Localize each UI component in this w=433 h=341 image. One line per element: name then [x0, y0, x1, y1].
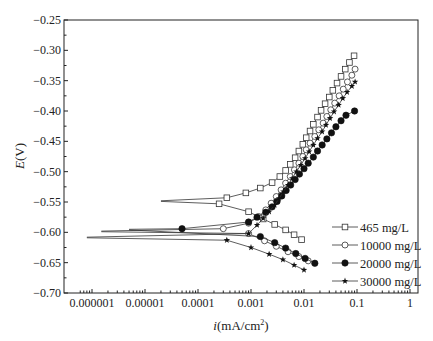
x-tick-label: 0.0001 — [182, 296, 215, 310]
y-tick-label: −0.30 — [33, 43, 61, 57]
marker-circle-filled — [319, 142, 325, 148]
marker-circle-filled — [342, 260, 348, 266]
x-axis-label: i(mA/cm2) — [213, 318, 268, 333]
marker-square-open — [291, 232, 297, 238]
x-tick-label: 0.1 — [350, 296, 365, 310]
marker-circle-filled — [293, 250, 299, 256]
marker-circle-filled — [324, 136, 330, 142]
marker-star — [291, 262, 297, 268]
marker-circle-filled — [257, 233, 263, 239]
legend: 465 mg/L10000 mg/L20000 mg/L30000 mg/L — [332, 221, 421, 289]
polarization-chart: −0.25−0.30−0.35−0.40−0.45−0.50−0.55−0.60… — [0, 0, 433, 341]
marker-circle-open — [344, 79, 350, 85]
marker-square-open — [330, 88, 336, 94]
marker-circle-filled — [333, 124, 339, 130]
marker-circle-open — [332, 100, 338, 106]
marker-circle-filled — [351, 108, 357, 114]
marker-square-open — [277, 174, 283, 180]
y-tick-label: −0.40 — [33, 104, 61, 118]
chart-canvas: −0.25−0.30−0.35−0.40−0.45−0.50−0.55−0.60… — [0, 0, 433, 341]
marker-square-open — [342, 66, 348, 72]
x-axis: 0.0000010.000010.00010.0010.010.11 — [70, 289, 414, 310]
legend-label: 10000 mg/L — [360, 239, 421, 253]
marker-square-open — [307, 128, 313, 134]
marker-star — [266, 251, 273, 257]
marker-circle-filled — [302, 255, 308, 261]
legend-item: 465 mg/L — [332, 221, 409, 235]
marker-square-open — [296, 148, 302, 154]
marker-square-open — [216, 201, 222, 207]
x-tick-label: 0.00001 — [126, 296, 165, 310]
marker-square-open — [338, 74, 344, 80]
marker-circle-filled — [310, 154, 316, 160]
marker-square-open — [334, 80, 340, 86]
y-tick-label: −0.70 — [33, 286, 61, 300]
marker-star — [224, 237, 231, 243]
y-axis-label: E(V) — [12, 143, 27, 170]
marker-circle-filled — [254, 214, 260, 220]
marker-square-open — [303, 135, 309, 141]
marker-square-open — [258, 185, 264, 191]
x-tick-label: 1 — [407, 296, 413, 310]
marker-square-open — [351, 53, 357, 59]
marker-circle-filled — [338, 118, 344, 124]
marker-square-open — [326, 94, 332, 100]
x-tick-label: 0.000001 — [70, 296, 115, 310]
marker-circle-filled — [314, 148, 320, 154]
marker-circle-filled — [271, 239, 277, 245]
marker-star — [301, 267, 307, 273]
series-30000-mg-L — [87, 79, 358, 273]
marker-square-open — [287, 162, 293, 168]
marker-square-open — [283, 168, 289, 174]
legend-item: 20000 mg/L — [332, 257, 421, 271]
y-tick-label: −0.60 — [33, 225, 61, 239]
x-tick-label: 0.001 — [238, 296, 265, 310]
marker-square-open — [342, 224, 348, 230]
marker-square-open — [283, 227, 289, 233]
y-tick-label: −0.25 — [33, 13, 61, 27]
marker-star — [352, 79, 359, 85]
legend-label: 465 mg/L — [360, 221, 409, 235]
y-tick-label: −0.55 — [33, 195, 61, 209]
marker-square-open — [311, 122, 317, 128]
marker-square-open — [318, 108, 324, 114]
marker-circle-open — [342, 242, 348, 248]
y-tick-label: −0.50 — [33, 165, 61, 179]
marker-square-open — [292, 155, 298, 161]
y-tick-label: −0.35 — [33, 74, 61, 88]
marker-circle-open — [220, 226, 226, 232]
marker-square-open — [347, 60, 353, 66]
marker-circle-filled — [343, 112, 349, 118]
y-tick-label: −0.65 — [33, 256, 61, 270]
marker-square-open — [224, 195, 230, 201]
legend-label: 30000 mg/L — [360, 275, 421, 289]
marker-square-open — [299, 237, 305, 243]
marker-circle-open — [352, 66, 358, 72]
marker-square-open — [246, 209, 252, 215]
marker-circle-open — [349, 72, 355, 78]
marker-square-open — [243, 190, 249, 196]
marker-circle-filled — [312, 260, 318, 266]
marker-square-open — [315, 114, 321, 120]
marker-circle-filled — [179, 225, 185, 231]
y-axis: −0.25−0.30−0.35−0.40−0.45−0.50−0.55−0.60… — [33, 13, 68, 300]
marker-square-open — [322, 101, 328, 107]
legend-label: 20000 mg/L — [360, 257, 421, 271]
legend-item: 10000 mg/L — [332, 239, 421, 253]
marker-square-open — [272, 222, 278, 228]
marker-circle-filled — [305, 160, 311, 166]
marker-star — [280, 256, 286, 262]
legend-item: 30000 mg/L — [332, 275, 421, 289]
marker-square-open — [300, 142, 306, 148]
marker-circle-filled — [328, 130, 334, 136]
marker-circle-filled — [245, 219, 251, 225]
x-tick-label: 0.01 — [294, 296, 315, 310]
y-tick-label: −0.45 — [33, 134, 61, 148]
marker-square-open — [269, 180, 275, 186]
marker-circle-filled — [282, 245, 288, 251]
